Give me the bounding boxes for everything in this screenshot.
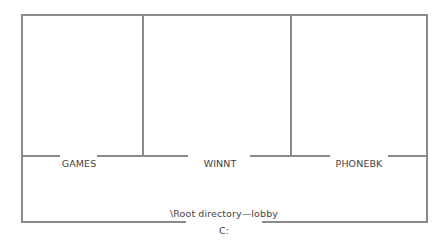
- outer-wall-top: [21, 14, 428, 16]
- outer-wall-right: [426, 14, 428, 223]
- outer-wall-bottom-left: [21, 221, 186, 223]
- room-divider-games-winnt: [142, 14, 144, 156]
- entrance-label: C:: [219, 225, 229, 236]
- outer-wall-bottom-right: [262, 221, 428, 223]
- room-label-winnt: WINNT: [204, 158, 237, 169]
- games-wall-left: [21, 155, 60, 157]
- lobby-label: \Root directory—lobby: [170, 208, 278, 219]
- phonebk-wall-right: [388, 155, 428, 157]
- room-divider-winnt-phonebk: [290, 14, 292, 156]
- outer-wall-left: [21, 14, 23, 223]
- games-winnt-wall: [97, 155, 188, 157]
- room-label-games: GAMES: [62, 158, 97, 169]
- winnt-phonebk-wall: [250, 155, 330, 157]
- room-label-phonebk: PHONEBK: [336, 158, 383, 169]
